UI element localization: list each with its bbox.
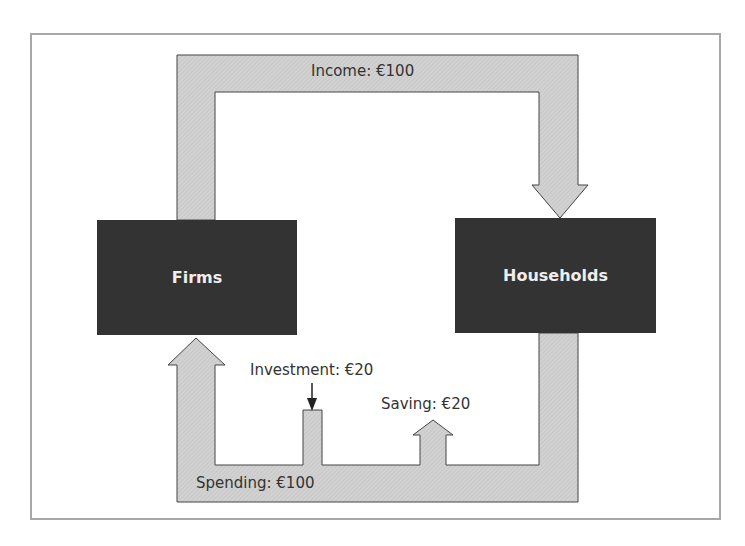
investment-arrow-icon xyxy=(307,383,317,411)
saving-label: Saving: €20 xyxy=(381,395,470,413)
firms-node: Firms xyxy=(97,220,297,335)
households-label: Households xyxy=(503,266,608,285)
income-label: Income: €100 xyxy=(311,62,414,80)
investment-label: Investment: €20 xyxy=(250,361,373,379)
spending-label: Spending: €100 xyxy=(196,474,315,492)
firms-label: Firms xyxy=(172,268,223,287)
households-node: Households xyxy=(455,218,656,333)
